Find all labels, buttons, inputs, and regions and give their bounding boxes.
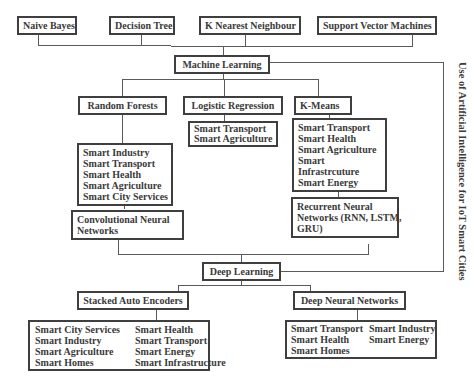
app-item: Smart Health: [291, 334, 369, 345]
app-item: Smart Agriculture: [83, 180, 167, 191]
app-item: Smart Health: [298, 133, 381, 144]
connector: [171, 46, 413, 47]
logistic-regression-node: Logistic Regression: [183, 96, 283, 115]
connector: [223, 46, 224, 55]
cnn-node: Convolutional Neural Networks: [71, 210, 184, 240]
connector: [318, 79, 319, 96]
app-item: Smart Industry: [35, 335, 135, 346]
app-item: Smart Health: [83, 169, 167, 180]
connector: [245, 34, 246, 46]
connector: [270, 62, 444, 63]
connector: [281, 271, 444, 272]
deep-neural-networks-node: Deep Neural Networks: [293, 291, 406, 310]
label-line: GRU): [297, 223, 393, 234]
app-item: Smart Transport: [298, 122, 381, 133]
app-item: Smart Agriculture: [35, 346, 135, 357]
stacked-auto-encoders-node: Stacked Auto Encoders: [77, 291, 189, 310]
app-item: Smart City Services: [35, 324, 135, 335]
knn-node: K Nearest Neighbour: [199, 16, 301, 35]
app-item: Smart City Services: [83, 191, 167, 202]
app-item: Smart: [298, 155, 381, 166]
decision-tree-node: Decision Tree: [109, 16, 175, 35]
app-item: Smart Energy: [135, 346, 226, 357]
connector: [224, 79, 225, 96]
logistic-regression-applications: Smart Transport Smart Agriculture: [188, 121, 278, 147]
connector: [122, 114, 123, 144]
app-item: Smart Homes: [291, 345, 369, 356]
app-item: Smart Homes: [35, 357, 135, 368]
app-item: Smart Industry: [369, 323, 435, 334]
label-line: Recurrent Neural: [297, 201, 393, 212]
app-item: Smart Energy: [369, 334, 435, 345]
app-item: Smart Transport: [291, 323, 369, 334]
connector: [241, 254, 242, 262]
connector: [122, 79, 318, 80]
rnn-node: Recurrent Neural Networks (RNN, LSTM, GR…: [291, 197, 399, 238]
connector: [38, 34, 39, 46]
connector: [412, 34, 413, 46]
app-item: Smart Transport: [135, 335, 226, 346]
connector: [178, 285, 310, 286]
connector: [443, 62, 444, 272]
app-item: Smart Industry: [83, 147, 167, 158]
app-item: Smart Transport: [83, 158, 167, 169]
app-item: Infrastrcuture: [298, 166, 381, 177]
stacked-auto-encoders-applications: Smart City Services Smart Industry Smart…: [28, 320, 210, 371]
label-line: Convolutional Neural: [77, 214, 178, 225]
connector: [122, 79, 123, 96]
naive-bayes-node: Naive Bayes: [17, 16, 77, 35]
connector: [141, 34, 142, 46]
k-means-applications: Smart Transport Smart Health Smart Agric…: [292, 118, 387, 192]
random-forests-applications: Smart Industry Smart Transport Smart Hea…: [77, 143, 173, 206]
diagram-title: Use of Artificial Intelligence for IoT S…: [448, 62, 468, 362]
svm-node: Support Vector Machines: [317, 16, 437, 35]
connector: [118, 254, 369, 255]
app-item: Smart Energy: [298, 177, 381, 188]
app-item: Smart Infrastructure: [135, 357, 226, 368]
random-forests-node: Random Forests: [78, 96, 167, 115]
app-item: Smart Agriculture: [298, 144, 381, 155]
machine-learning-node: Machine Learning: [174, 55, 270, 74]
app-item: Smart Agriculture: [194, 134, 272, 144]
label-line: Networks (RNN, LSTM,: [297, 212, 393, 223]
deep-learning-node: Deep Learning: [202, 262, 281, 281]
k-means-node: K-Means: [294, 96, 352, 115]
connector: [118, 240, 119, 255]
connector: [38, 45, 171, 46]
app-item: Smart Health: [135, 324, 226, 335]
deep-neural-networks-applications: Smart Transport Smart Health Smart Homes…: [285, 320, 437, 359]
label-line: Networks: [77, 225, 178, 236]
